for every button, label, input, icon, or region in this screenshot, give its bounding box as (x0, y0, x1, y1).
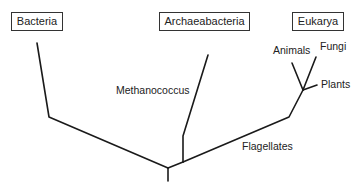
archaeabacteria-label: Archaeabacteria (164, 15, 244, 27)
animals-branch (292, 63, 303, 90)
eukarya-box: Eukarya (292, 12, 344, 31)
archaeabacteria-box: Archaeabacteria (159, 12, 250, 31)
bacteria-box: Bacteria (11, 12, 63, 31)
fungi-branch (303, 57, 316, 90)
archaea-branch (183, 55, 208, 162)
plants-label: Plants (321, 78, 350, 90)
eukarya-label: Eukarya (298, 15, 338, 27)
animals-label: Animals (273, 44, 310, 56)
flagellates-label: Flagellates (242, 140, 293, 152)
bacteria-branch (37, 43, 168, 168)
methanococcus-label: Methanococcus (116, 84, 190, 96)
fungi-label: Fungi (320, 40, 346, 52)
bacteria-label: Bacteria (17, 15, 57, 27)
root-to-split-branch (168, 162, 183, 168)
